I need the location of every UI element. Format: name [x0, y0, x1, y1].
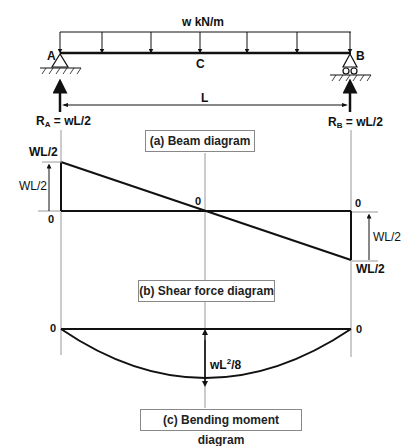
- caption-beam: (a) Beam diagram: [145, 130, 255, 152]
- bending-moment-diagram: [61, 329, 351, 385]
- reaction-b-label: RB = wL/2: [328, 116, 383, 130]
- moment-right-zero: 0: [356, 324, 362, 335]
- reaction-a-label: RA = wL/2: [36, 115, 91, 129]
- shear-mid-zero: 0: [195, 196, 201, 207]
- shear-left-dim-label: WL/2: [19, 180, 47, 192]
- shear-left-zero: 0: [48, 214, 54, 225]
- load-label: w kN/m: [182, 16, 224, 28]
- guide-lines: [61, 130, 351, 408]
- shear-right-dim-label: WL/2: [373, 231, 401, 243]
- midpoint-label: C: [196, 58, 205, 70]
- moment-left-zero: 0: [50, 323, 56, 334]
- diagram-canvas: [0, 0, 415, 446]
- support-a-label: A: [47, 50, 56, 62]
- moment-max-label: wL2/8: [210, 358, 241, 371]
- support-b-label: B: [356, 50, 365, 62]
- caption-shear: (b) Shear force diagram: [138, 280, 275, 302]
- span-label: L: [201, 92, 208, 104]
- caption-moment: (c) Bending moment diagram: [140, 409, 302, 431]
- shear-right-bottom-label: WL/2: [356, 263, 385, 275]
- shear-right-zero: 0: [355, 198, 361, 209]
- udl-load: [60, 32, 351, 51]
- shear-left-top-label: WL/2: [29, 146, 58, 158]
- shear-diagram: [38, 162, 378, 261]
